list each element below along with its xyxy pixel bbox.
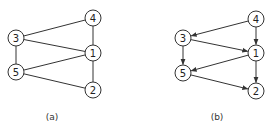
edge-5-2	[24, 74, 85, 88]
figure-caption-b: (b)	[211, 112, 224, 122]
node-2: 2	[248, 83, 264, 99]
node-label: 2	[90, 85, 96, 96]
edge-3-1	[191, 40, 248, 52]
edge-5-2	[191, 75, 248, 89]
node-4: 4	[85, 10, 101, 26]
node-label: 4	[90, 13, 96, 24]
edge-1-5	[191, 55, 248, 71]
node-label: 5	[180, 68, 186, 79]
edge-4-3	[191, 21, 248, 36]
node-4: 4	[248, 11, 264, 27]
node-label: 1	[90, 48, 96, 59]
edge-3-4	[24, 20, 86, 36]
node-label: 3	[13, 33, 19, 44]
node-label: 2	[253, 86, 259, 97]
figure-a-undirected-graph: 35412(a)	[8, 10, 101, 122]
node-label: 4	[253, 14, 259, 25]
node-label: 5	[13, 67, 19, 78]
edge-3-1	[24, 40, 85, 52]
figure-b-directed-graph: 35412(b)	[175, 11, 264, 122]
node-1: 1	[248, 45, 264, 61]
node-3: 3	[175, 30, 191, 46]
node-1: 1	[85, 45, 101, 61]
node-5: 5	[8, 64, 24, 80]
graph-diagram: 35412(a) 35412(b)	[0, 0, 272, 129]
node-label: 3	[180, 33, 186, 44]
figure-caption-a: (a)	[46, 112, 59, 122]
node-label: 1	[253, 48, 259, 59]
node-3: 3	[8, 30, 24, 46]
node-5: 5	[175, 65, 191, 81]
edge-5-1	[24, 55, 85, 70]
node-2: 2	[85, 82, 101, 98]
